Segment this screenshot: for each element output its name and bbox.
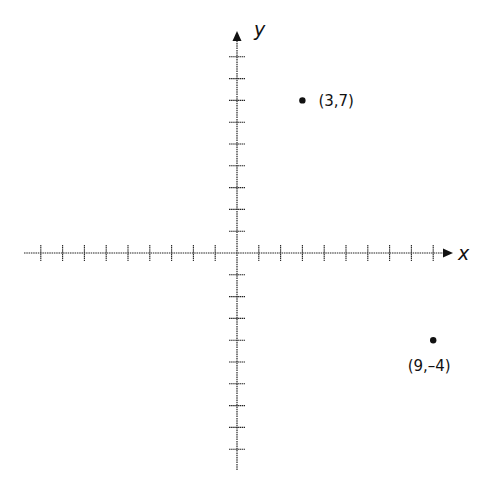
axes: [24, 40, 446, 470]
y-axis-label: y: [253, 18, 266, 40]
point-dot-icon: [299, 97, 305, 103]
point-label: (9,–4): [408, 357, 451, 375]
data-point: (3,7): [299, 92, 354, 110]
point-label: (3,7): [318, 92, 354, 110]
y-axis-arrow-icon: [233, 31, 242, 41]
coordinate-plane: x y (3,7)(9,–4): [0, 0, 489, 494]
point-dot-icon: [430, 337, 436, 343]
data-point: (9,–4): [408, 337, 451, 375]
x-axis-arrow-icon: [443, 249, 453, 258]
data-points: (3,7)(9,–4): [299, 92, 451, 375]
x-axis-label: x: [457, 242, 470, 264]
